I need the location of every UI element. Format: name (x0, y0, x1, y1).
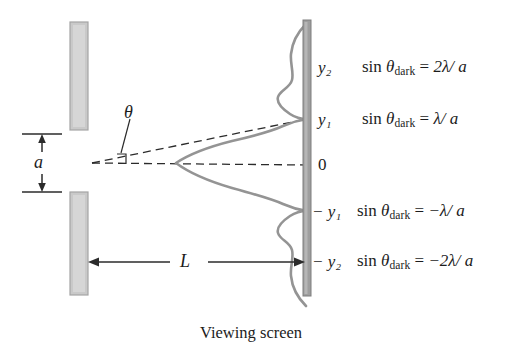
equation-equals-y2: = (420, 57, 430, 76)
equation-rhs-neg-y2: −2λ/ a (428, 251, 473, 270)
equation-neg-y2: sin θdark = −2λ/ a (357, 252, 473, 271)
equation-neg-y1: sin θdark = −λ/ a (357, 202, 465, 221)
distance-L-arrow (88, 258, 305, 267)
equation-sin-y2: sin (362, 57, 382, 76)
equation-subscript-neg-y2: dark (389, 259, 410, 271)
equation-equals-neg-y2: = (415, 251, 425, 270)
equation-sin-y1: sin (362, 109, 382, 128)
equation-rhs-neg-y1: −λ/ a (428, 201, 464, 220)
diffraction-diagram-canvas (0, 0, 524, 356)
theta-angle-label: θ (124, 103, 133, 121)
equation-sin-neg-y1: sin (357, 201, 377, 220)
equation-y1: sin θdark = λ/ a (362, 110, 458, 129)
screen-position-label-neg-y2: − y₂ (312, 253, 341, 270)
equation-subscript-neg-y1: dark (389, 209, 410, 221)
central-axis-dashed-line (92, 163, 308, 165)
screen-position-label-neg-y1: − y₁ (312, 203, 341, 220)
lower-barrier (70, 192, 88, 295)
upper-barrier (70, 22, 88, 130)
slit-width-label: a (34, 153, 43, 171)
single-slit-diffraction-figure: a θ L y₂ sin θdark = 2λ/ a y₁ sin θdark … (0, 0, 524, 356)
screen-position-label-zero: 0 (318, 156, 327, 173)
angle-vertex-mark (117, 154, 126, 164)
equation-rhs-y1: λ/ a (433, 109, 458, 128)
distance-L-label: L (180, 252, 190, 270)
equation-equals-neg-y1: = (415, 201, 425, 220)
screen-position-label-y1: y₁ (318, 111, 331, 128)
screen-position-label-y2: y₂ (318, 59, 331, 76)
equation-equals-y1: = (420, 109, 430, 128)
equation-subscript-y2: dark (394, 65, 415, 77)
equation-subscript-y1: dark (394, 117, 415, 129)
equation-y2: sin θdark = 2λ/ a (362, 58, 467, 77)
theta-leader-line (121, 119, 130, 153)
equation-sin-neg-y2: sin (357, 251, 377, 270)
viewing-screen-caption: Viewing screen (200, 325, 302, 342)
equation-rhs-y2: 2λ/ a (433, 57, 466, 76)
viewing-screen-bar (303, 20, 311, 296)
